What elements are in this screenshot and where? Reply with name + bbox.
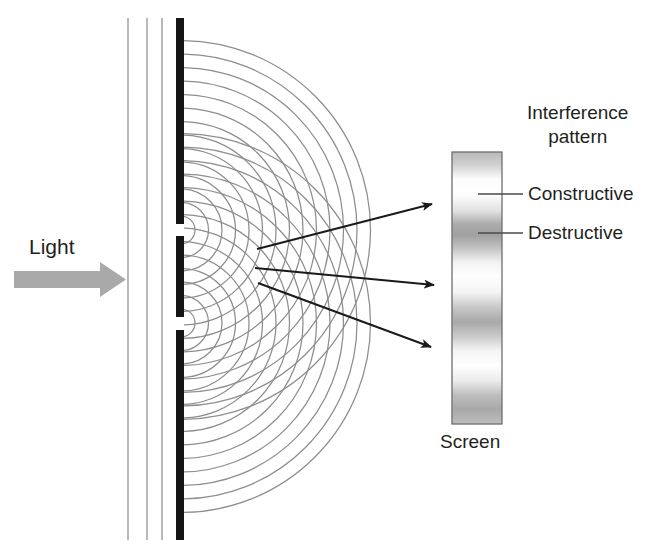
light-label: Light xyxy=(29,235,75,260)
screen-label: Screen xyxy=(440,431,500,453)
barrier-segment-bottom xyxy=(176,330,184,540)
barrier-segment-middle xyxy=(176,236,184,317)
interference-title-line-1: Interference xyxy=(527,102,628,123)
barrier-with-slits xyxy=(176,18,184,540)
light-direction-arrow xyxy=(14,262,126,297)
barrier-segment-top xyxy=(176,18,184,224)
incoming-wavefronts xyxy=(128,18,162,540)
screen-panel xyxy=(452,152,502,424)
destructive-label: Destructive xyxy=(528,222,623,244)
diagram-canvas: Light Interferencepattern Constructive D… xyxy=(0,0,649,546)
screen-fringe-pattern xyxy=(452,152,502,424)
double-slit-diagram xyxy=(0,0,649,546)
interference-pattern-title: Interferencepattern xyxy=(527,101,628,150)
ray-arrow-upper xyxy=(257,204,432,249)
interference-title-line-2: pattern xyxy=(527,125,628,149)
constructive-label: Constructive xyxy=(528,183,634,205)
